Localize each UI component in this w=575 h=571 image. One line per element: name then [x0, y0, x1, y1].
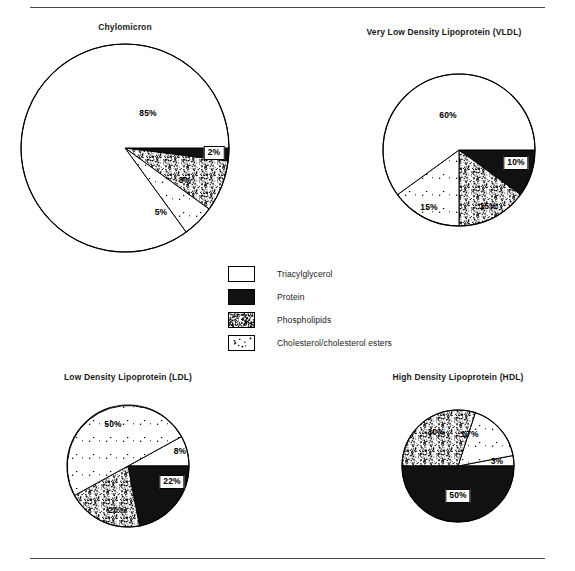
chart-title-ldl: Low Density Lipoprotein (LDL) — [64, 372, 192, 382]
slice-label-vldl-3: 60% — [439, 110, 456, 120]
slice-label-chylomicron-3: 85% — [139, 108, 156, 118]
slice-label-hdl-1: 17% — [461, 429, 478, 439]
pie-svg-ldl — [65, 403, 191, 529]
swatch-texture — [229, 336, 254, 350]
pie-chart-chylomicron — [19, 42, 231, 254]
figure-canvas: Chylomicron Very Low Density Lipoprotein… — [0, 0, 575, 571]
legend-label-phospholipids: Phospholipids — [277, 315, 331, 325]
slice-label-chylomicron-0: 2% — [204, 146, 225, 160]
chart-title-chylomicron: Chylomicron — [98, 22, 152, 32]
legend-swatch-phospholipids — [228, 312, 255, 328]
legend-label-protein: Protein — [277, 292, 305, 302]
slice-label-chylomicron-1: 8% — [179, 175, 192, 185]
slice-label-ldl-0: 8% — [174, 446, 187, 456]
slice-label-vldl-0: 10% — [503, 156, 528, 170]
slice-label-ldl-2: 20% — [108, 505, 125, 515]
chart-title-vldl: Very Low Density Lipoprotein (VLDL) — [367, 27, 522, 37]
slice-label-vldl-1: 15% — [479, 201, 496, 211]
legend-label-triacylglycerol: Triacylglycerol — [277, 269, 333, 279]
legend-swatch-triacylglycerol — [228, 266, 255, 282]
chart-title-hdl: High Density Lipoprotein (HDL) — [392, 372, 523, 382]
top-divider-rule — [30, 7, 545, 8]
pie-chart-vldl — [381, 72, 537, 228]
slice-label-vldl-2: 15% — [420, 202, 437, 212]
slice-label-chylomicron-2: 5% — [155, 207, 168, 217]
pie-svg-vldl — [381, 72, 537, 228]
slice-label-ldl-1: 22% — [159, 475, 184, 489]
pie-chart-ldl — [65, 403, 191, 529]
slice-label-hdl-3: 50% — [445, 489, 470, 503]
slice-label-ldl-3: 50% — [104, 419, 121, 429]
legend-item-protein: Protein — [228, 285, 468, 308]
legend-item-phospholipids: Phospholipids — [228, 308, 468, 331]
pie-svg-chylomicron — [19, 42, 231, 254]
swatch-texture — [229, 313, 254, 327]
pie-svg-hdl — [400, 408, 516, 524]
bottom-divider-rule — [30, 558, 545, 559]
slice-label-hdl-2: 30% — [427, 427, 444, 437]
legend-item-cholesterol: Cholesterol/cholesterol esters — [228, 331, 468, 354]
legend: Triacylglycerol Protein Phospholipids Ch… — [228, 262, 468, 354]
legend-swatch-cholesterol — [228, 335, 255, 351]
legend-label-cholesterol: Cholesterol/cholesterol esters — [277, 338, 392, 348]
pie-chart-hdl — [400, 408, 516, 524]
legend-swatch-protein — [228, 289, 255, 305]
slice-label-hdl-0: 3% — [491, 456, 504, 466]
legend-item-triacylglycerol: Triacylglycerol — [228, 262, 468, 285]
